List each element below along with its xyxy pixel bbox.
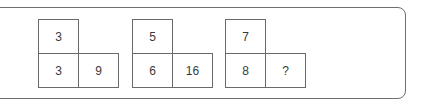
group-3-bottom-left-cell: 8 xyxy=(225,53,266,88)
group-1-bottom-left-cell: 3 xyxy=(38,53,79,88)
group-1-top-cell: 3 xyxy=(38,19,79,54)
group-3-unknown-cell: ? xyxy=(265,53,306,88)
number-group-3: 7 8 ? xyxy=(225,19,306,89)
number-group-2: 5 6 16 xyxy=(132,19,213,89)
group-2-top-cell: 5 xyxy=(132,19,173,54)
group-2-bottom-right-cell: 16 xyxy=(172,53,213,88)
group-1-bottom-right-cell: 9 xyxy=(78,53,119,88)
number-group-1: 3 3 9 xyxy=(38,19,119,89)
group-2-bottom-left-cell: 6 xyxy=(132,53,173,88)
group-3-top-cell: 7 xyxy=(225,19,266,54)
